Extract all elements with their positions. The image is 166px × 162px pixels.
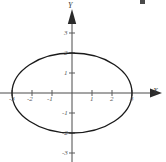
x-tick-label-neg1: -1 xyxy=(47,96,53,103)
coordinate-plane xyxy=(0,0,166,162)
x-tick-label-2: 2 xyxy=(110,96,114,103)
y-tick-label-neg1: -1 xyxy=(62,110,68,117)
y-tick-label-neg3: -3 xyxy=(62,150,68,157)
ellipse-graph-figure: X Y -3 -2 -1 1 2 3 3 2 1 -1 -2 -3 xyxy=(0,0,166,162)
y-tick-label-1: 1 xyxy=(64,70,68,77)
y-tick-label-neg2: -2 xyxy=(62,130,68,137)
x-tick-label-neg2: -2 xyxy=(27,96,33,103)
y-axis-label: Y xyxy=(68,2,72,10)
y-tick-label-2: 2 xyxy=(64,50,68,57)
x-tick-label-neg3: -3 xyxy=(9,96,15,103)
x-tick-label-1: 1 xyxy=(90,96,94,103)
x-tick-label-3: 3 xyxy=(130,96,134,103)
y-axis-arrowhead xyxy=(68,9,76,24)
x-axis-label: X xyxy=(153,88,158,96)
y-tick-label-3: 3 xyxy=(64,30,68,37)
scan-artifact xyxy=(140,0,145,4)
